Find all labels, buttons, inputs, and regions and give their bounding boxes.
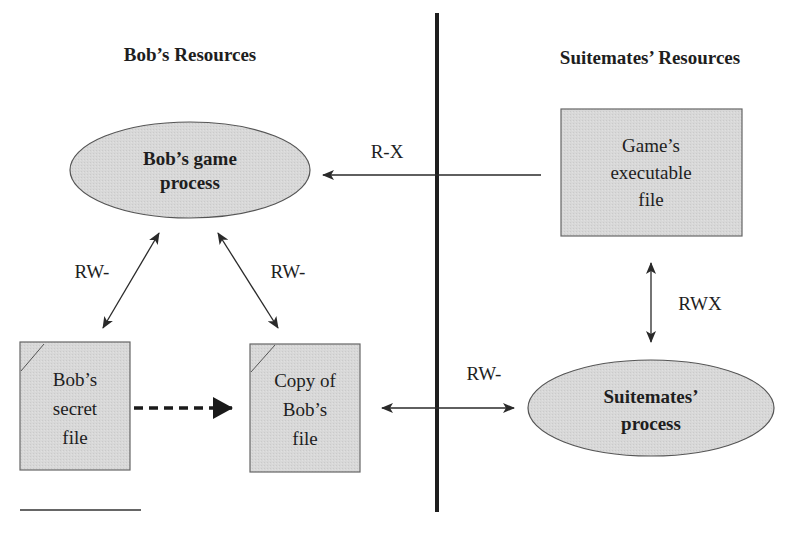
label-line: Bob’s xyxy=(53,365,97,394)
game-executable-label: Game’s executable file xyxy=(610,132,691,213)
edge-label-rw-secret: RW- xyxy=(75,262,110,281)
edge-label-rwx: RWX xyxy=(678,294,721,313)
label-line: executable xyxy=(610,159,691,186)
label-line: process xyxy=(143,171,237,195)
heading-suitemates-resources: Suitemates’ Resources xyxy=(560,48,740,67)
label-line: file xyxy=(610,186,691,213)
edge-rw-copy-arrow xyxy=(218,233,278,328)
edge-label-rw-copy: RW- xyxy=(271,262,306,281)
edge-label-rw-suite: RW- xyxy=(467,364,502,383)
copy-of-bob-file-label: Copy of Bob’s file xyxy=(274,366,336,453)
label-line: Bob’s xyxy=(274,395,336,424)
label-line: Bob’s game xyxy=(143,147,237,171)
bob-secret-file-label: Bob’s secret file xyxy=(53,365,97,452)
heading-bob-resources: Bob’s Resources xyxy=(124,45,256,64)
label-line: Suitemates’ xyxy=(604,383,699,410)
label-line: process xyxy=(604,410,699,437)
diagram-canvas xyxy=(0,0,791,542)
label-line: file xyxy=(53,423,97,452)
edge-rw-secret-arrow xyxy=(103,233,159,328)
bob-game-process-label: Bob’s game process xyxy=(143,147,237,195)
label-line: secret xyxy=(53,394,97,423)
label-line: file xyxy=(274,424,336,453)
edge-label-rx: R-X xyxy=(371,142,404,161)
label-line: Game’s xyxy=(610,132,691,159)
label-line: Copy of xyxy=(274,366,336,395)
suitemates-process-label: Suitemates’ process xyxy=(604,383,699,437)
